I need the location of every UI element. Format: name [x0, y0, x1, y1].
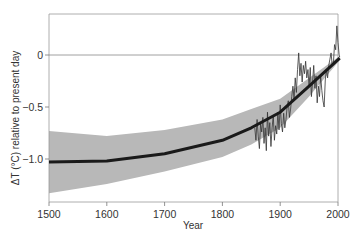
- x-axis-label: Year: [183, 220, 204, 231]
- y-tick-label: −1.0: [22, 153, 43, 165]
- x-tick-label: 1500: [37, 208, 61, 220]
- y-axis-label: ΔT (°C) relative to present day: [10, 51, 21, 185]
- y-tick-label: 0: [37, 49, 43, 61]
- uncertainty-band: [49, 56, 340, 193]
- x-tick-label: 2000: [326, 208, 350, 220]
- x-tick-label: 1900: [269, 208, 293, 220]
- y-tick-label: −0.5: [22, 101, 43, 113]
- y-axis: 0−0.5−1.0: [22, 49, 49, 165]
- x-axis: 150016001700180019002000: [37, 202, 350, 220]
- x-tick-label: 1800: [211, 208, 235, 220]
- x-tick-label: 1700: [153, 208, 177, 220]
- x-tick-label: 1600: [95, 208, 119, 220]
- temperature-chart: 150016001700180019002000 0−0.5−1.0 Year …: [0, 0, 355, 238]
